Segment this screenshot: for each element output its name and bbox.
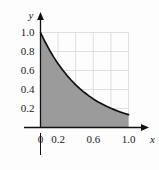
y-axis-arrowhead <box>37 12 44 20</box>
y-axis-label: y <box>29 10 34 21</box>
y-tick-label-1.0: 1.0 <box>11 27 35 38</box>
x-tick-label-1.0: 1.0 <box>117 134 141 145</box>
y-tick-label-0.2: 0.2 <box>11 103 35 114</box>
y-tick-label-0.6: 0.6 <box>11 65 35 76</box>
figure-container: 1.0 0.8 0.6 0.4 0.2 0 0.2 0.6 1.0 y x <box>0 0 159 170</box>
y-tick-label-0.4: 0.4 <box>11 84 35 95</box>
x-tick-label-0.6: 0.6 <box>81 134 105 145</box>
x-axis-label: x <box>150 134 155 145</box>
x-tick-label-0.2: 0.2 <box>46 134 70 145</box>
shaded-region <box>41 33 129 128</box>
y-tick-label-0.8: 0.8 <box>11 46 35 57</box>
x-axis-arrowhead <box>141 124 149 131</box>
